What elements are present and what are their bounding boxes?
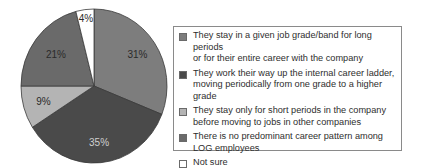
legend-swatch-icon [179,160,187,168]
legend-swatch-icon [179,33,187,41]
slice-percent-label: 21% [46,49,66,60]
legend-swatch-icon [179,71,187,79]
legend-swatch-icon [179,108,187,116]
legend-label: They stay in a given job grade/band for … [193,30,397,65]
slice-percent-label: 4% [79,13,94,24]
legend-item-short-stay: They stay only for short periods in the … [179,105,397,128]
legend-label: They stay only for short periods in the … [193,105,386,128]
legend-label: Not sure [193,157,228,168]
chart-legend: They stay in a given job grade/band for … [173,26,402,151]
legend-item-no-pattern: There is no predominant career pattern a… [179,131,397,154]
pie-chart: 31%35%9%21%4% [0,0,190,168]
slice-percent-label: 31% [127,49,147,60]
legend-swatch-icon [179,134,187,142]
legend-label: They work their way up the internal care… [193,68,397,103]
legend-item-career-ladder: They work their way up the internal care… [179,68,397,103]
slice-percent-label: 9% [36,96,51,107]
legend-label: There is no predominant career pattern a… [193,131,383,154]
legend-item-long-tenure: They stay in a given job grade/band for … [179,30,397,65]
legend-item-not-sure: Not sure [179,157,397,168]
slice-percent-label: 35% [89,137,109,148]
